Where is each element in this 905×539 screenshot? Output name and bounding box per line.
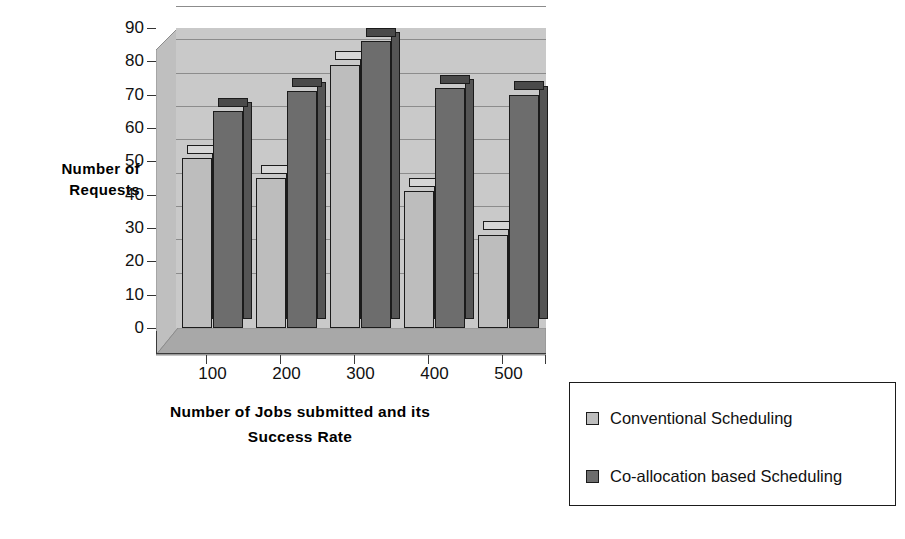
bar-top	[483, 221, 513, 230]
bar-face	[509, 95, 539, 328]
x-tick-mark-500	[502, 355, 503, 364]
y-tick-label-40: 40	[108, 186, 144, 203]
y-tick-label-10: 10	[108, 286, 144, 303]
y-tick-mark-30	[147, 228, 156, 229]
bar-300-series1	[361, 32, 391, 328]
bar-top	[218, 98, 248, 107]
bar-top	[409, 178, 439, 187]
y-tick-label-60: 60	[108, 119, 144, 136]
y-tick-mark-50	[147, 161, 156, 162]
bar-top	[440, 75, 470, 84]
bar-face	[256, 178, 286, 328]
bar-500-series1	[509, 86, 539, 328]
legend-item-1[interactable]: Co-allocation based Scheduling	[586, 467, 842, 486]
bar-side	[243, 102, 252, 319]
y-tick-mark-90	[147, 28, 156, 29]
y-tick-mark-60	[147, 128, 156, 129]
y-tick-mark-70	[147, 95, 156, 96]
y-tick-label-0: 0	[108, 319, 144, 336]
y-tick-mark-0	[147, 328, 156, 329]
y-tick-label-30: 30	[108, 219, 144, 236]
bar-200-series0	[256, 169, 286, 328]
bar-face	[287, 91, 317, 328]
x-tick-mark-300	[354, 355, 355, 364]
y-tick-label-20: 20	[108, 252, 144, 269]
bar-300-series0	[330, 56, 360, 328]
bar-top	[514, 81, 544, 90]
x-axis-title: Number of Jobs submitted and its Success…	[80, 399, 520, 449]
bar-side	[539, 86, 548, 319]
bar-top	[335, 51, 365, 60]
bar-200-series1	[287, 82, 317, 328]
bar-top	[292, 78, 322, 87]
legend-item-0[interactable]: Conventional Scheduling	[586, 409, 793, 428]
bar-top	[366, 28, 396, 37]
bar-top	[261, 165, 291, 174]
x-tick-mark-end	[545, 355, 546, 364]
bar-face	[361, 41, 391, 328]
legend-swatch-icon	[586, 412, 599, 425]
bar-face	[478, 235, 508, 328]
x-tick-mark-400	[428, 355, 429, 364]
bar-top	[187, 145, 217, 154]
bar-side	[317, 82, 326, 319]
plot-left-slab	[156, 28, 178, 355]
bar-400-series0	[404, 182, 434, 328]
bar-400-series1	[435, 79, 465, 328]
bar-100-series0	[182, 149, 212, 328]
x-tick-label-100: 100	[178, 364, 248, 384]
bar-face	[435, 88, 465, 328]
bar-face	[404, 191, 434, 328]
bar-500-series0	[478, 226, 508, 328]
x-axis-title-line2: Success Rate	[80, 424, 520, 449]
legend-swatch-icon	[586, 470, 599, 483]
x-tick-label-200: 200	[252, 364, 322, 384]
bar-face	[330, 65, 360, 328]
bar-face	[213, 111, 243, 328]
bar-face	[182, 158, 212, 328]
x-tick-label-500: 500	[474, 364, 544, 384]
y-tick-label-80: 80	[108, 52, 144, 69]
legend-label: Co-allocation based Scheduling	[610, 467, 842, 486]
bar-chart: Number of Requests 9080706050403020100 1…	[0, 0, 905, 539]
gridline-90	[176, 6, 546, 7]
x-axis-line	[156, 353, 546, 354]
plot-area	[156, 28, 546, 355]
y-tick-mark-20	[147, 261, 156, 262]
y-axis-line	[156, 331, 157, 353]
x-tick-label-400: 400	[400, 364, 470, 384]
legend-label: Conventional Scheduling	[610, 409, 793, 428]
x-axis-title-line1: Number of Jobs submitted and its	[80, 399, 520, 424]
plot-floor	[156, 328, 546, 355]
x-tick-mark-100	[206, 355, 207, 364]
x-tick-mark-200	[280, 355, 281, 364]
bar-side	[391, 32, 400, 319]
y-tick-mark-40	[147, 195, 156, 196]
y-tick-label-50: 50	[108, 152, 144, 169]
x-tick-label-300: 300	[326, 364, 396, 384]
y-tick-mark-80	[147, 61, 156, 62]
y-tick-label-90: 90	[108, 19, 144, 36]
bar-side	[465, 79, 474, 319]
y-tick-label-70: 70	[108, 86, 144, 103]
y-tick-mark-10	[147, 295, 156, 296]
legend: Conventional SchedulingCo-allocation bas…	[569, 382, 896, 506]
bar-100-series1	[213, 102, 243, 328]
